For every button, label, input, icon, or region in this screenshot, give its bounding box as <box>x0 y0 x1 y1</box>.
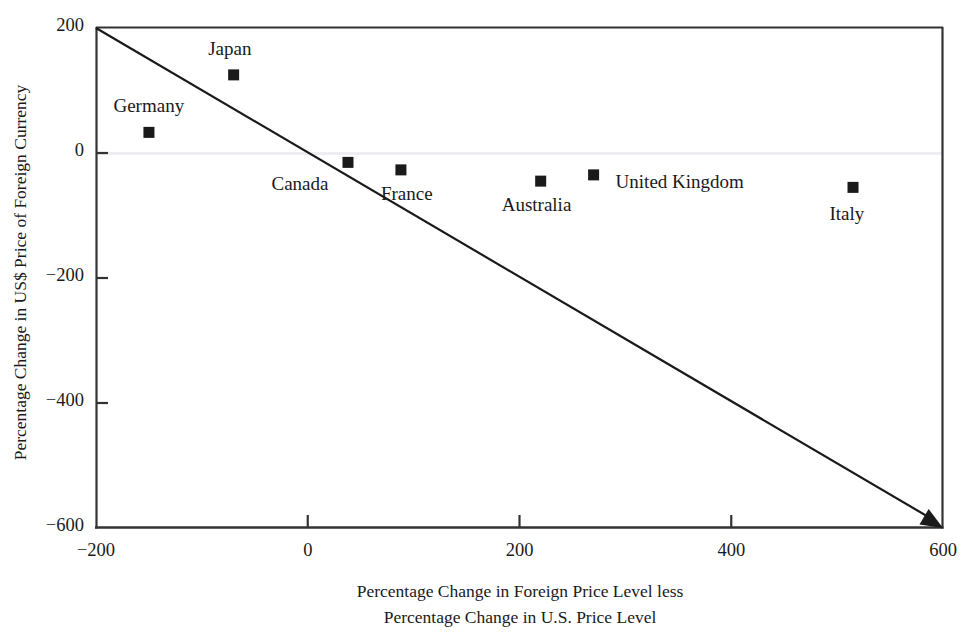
data-point-label: Canada <box>271 173 328 195</box>
data-point-label: United Kingdom <box>616 171 744 193</box>
data-point-label: Japan <box>208 38 251 60</box>
x-tick-label: 600 <box>898 540 961 561</box>
x-tick-label: −200 <box>51 540 141 561</box>
data-point-marker <box>535 176 546 187</box>
y-tick-label: 200 <box>14 15 84 36</box>
data-point-marker <box>848 182 859 193</box>
x-tick-label: 0 <box>263 540 353 561</box>
data-point-marker <box>395 164 406 175</box>
y-tick-label: 0 <box>14 140 84 161</box>
data-point-label: Germany <box>113 95 184 117</box>
y-tick-label: −600 <box>14 515 84 536</box>
x-axis-title-line2: Percentage Change in U.S. Price Level <box>96 604 944 630</box>
chart-figure: Percentage Change in US$ Price of Foreig… <box>0 0 961 641</box>
data-point-label: Australia <box>502 194 572 216</box>
y-tick-label: −400 <box>14 390 84 411</box>
data-point-marker <box>143 127 154 138</box>
x-axis-ticks <box>308 515 732 528</box>
data-point-label: Italy <box>830 203 865 225</box>
data-point-marker <box>342 157 353 168</box>
x-axis-title-line1: Percentage Change in Foreign Price Level… <box>96 578 944 604</box>
y-axis-ticks <box>96 153 108 403</box>
data-point-markers <box>143 69 858 193</box>
x-axis-title: Percentage Change in Foreign Price Level… <box>96 578 944 630</box>
y-tick-label: −200 <box>14 265 84 286</box>
x-tick-label: 200 <box>475 540 565 561</box>
data-point-marker <box>588 169 599 180</box>
reference-line <box>96 28 943 528</box>
data-point-label: France <box>381 183 433 205</box>
data-point-marker <box>228 69 239 80</box>
x-tick-label: 400 <box>686 540 776 561</box>
